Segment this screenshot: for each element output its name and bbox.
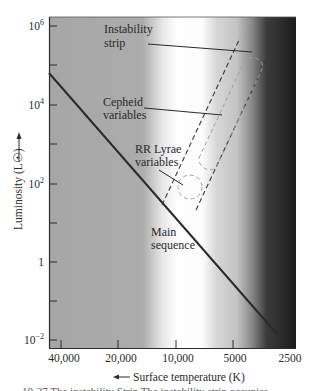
y-tick-label-1e6: 106	[29, 18, 45, 32]
figure-caption: 10-27 The instability Strip The instabil…	[22, 383, 312, 391]
x-tick-label-20000: 20,000	[105, 352, 137, 365]
x-tick-label-2500: 2500	[279, 352, 302, 364]
y-tick-label-1: 1	[38, 256, 44, 268]
hr-diagram: 106 104 102 1 10−2 Luminosity (L☉) 40,00…	[0, 0, 313, 391]
x-tick-label-10000: 10,000	[162, 352, 194, 365]
y-tick-label-1e2: 102	[29, 176, 45, 190]
y-tick-label-1e4: 104	[29, 97, 45, 111]
annotation-cepheid: Cepheid variables	[103, 95, 147, 122]
annotation-rr-lyrae: RR Lyrae variables	[135, 142, 184, 169]
y-tick-label-1e-2: 10−2	[24, 332, 44, 346]
x-tick-label-40000: 40,000	[48, 352, 80, 365]
x-axis-arrow-icon	[113, 375, 130, 380]
x-tick-label-5000: 5000	[224, 352, 247, 364]
